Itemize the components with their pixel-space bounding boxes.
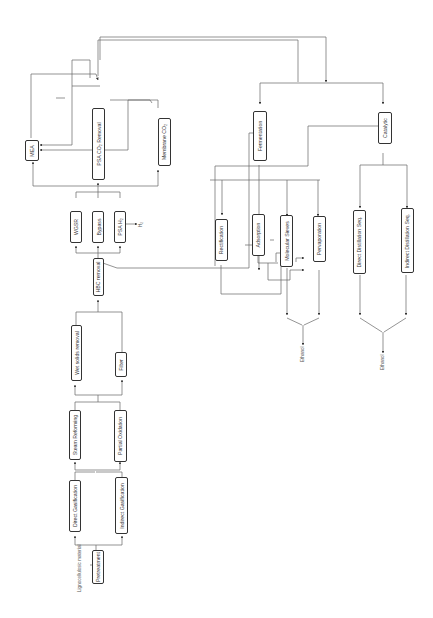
node-label: HBC removal [96, 262, 102, 293]
node-label: Direct Gasification [72, 485, 78, 527]
node-label: Wet solids removal [74, 331, 80, 375]
node-adsorption[interactable]: Adsorption [252, 214, 265, 256]
output-h2-text: H₂ [138, 222, 143, 227]
connector-lines [0, 0, 433, 618]
node-direct-gasification[interactable]: Direct Gasification [69, 480, 81, 532]
node-label: Catalytic [382, 118, 388, 138]
node-label: Partial Oxidation [118, 417, 124, 455]
process-flow-diagram: Lignocellulosic material Pretreatment Di… [0, 0, 433, 618]
node-bypass[interactable]: Bypass [92, 211, 104, 243]
output-ethanol-text: Ethanol [380, 354, 385, 370]
output-ethanol-text: Ethanol [300, 346, 305, 362]
node-label: MEA [29, 145, 35, 156]
node-pretreatment[interactable]: Pretreatment [92, 550, 104, 584]
node-pervaporation[interactable]: Pervaporation [313, 216, 326, 262]
node-label: Bypass [95, 218, 101, 235]
node-membrane-co2[interactable]: Membrane CO₂ [158, 118, 171, 166]
node-label: Steam Reforming [72, 415, 78, 455]
output-h2-label: H₂ [138, 222, 143, 227]
node-label: Membrane CO₂ [162, 124, 168, 160]
node-label: Indirect Gasification [119, 483, 125, 529]
node-catalytic[interactable]: Catalytic [378, 112, 392, 144]
node-partial-oxidation[interactable]: Partial Oxidation [114, 410, 127, 462]
node-molecular-sieves[interactable]: Molecular Sieves [280, 215, 293, 267]
output-ethanol-fermentation: Ethanol [300, 346, 305, 362]
node-label: Fermentation [257, 121, 263, 152]
node-rectification[interactable]: Rectification [215, 219, 228, 261]
node-indirect-distillation-seq[interactable]: Indirect Distillation Seq. [401, 208, 414, 273]
node-label: PSA CO₂ Removal [96, 122, 102, 165]
node-label: PSA H₂ [117, 218, 123, 235]
node-label: Filter [118, 359, 124, 371]
output-ethanol-catalytic: Ethanol [380, 354, 385, 370]
node-label: Rectification [219, 226, 225, 254]
node-label: Pervaporation [317, 223, 323, 255]
node-label: Pretreatment [95, 552, 101, 582]
node-label: Direct Distillation Seq. [357, 217, 363, 268]
node-wgsr[interactable]: WGSR [70, 211, 82, 243]
node-mea[interactable]: MEA [25, 140, 39, 161]
node-label: Molecular Sieves [284, 221, 290, 261]
node-psa-co2-removal[interactable]: PSA CO₂ Removal [92, 108, 105, 180]
node-label: Adsorption [256, 223, 262, 248]
node-filter[interactable]: Filter [115, 352, 127, 377]
node-fermentation[interactable]: Fermentation [253, 111, 267, 161]
node-label: WGSR [73, 219, 79, 235]
input-label-text: Lignocellulosic material [77, 545, 82, 593]
node-steam-reforming[interactable]: Steam Reforming [69, 410, 81, 460]
node-psa-h2[interactable]: PSA H₂ [114, 211, 126, 243]
node-indirect-gasification[interactable]: Indirect Gasification [115, 477, 128, 534]
node-hbc-removal[interactable]: HBC removal [93, 258, 104, 296]
node-label: Indirect Distillation Seq. [405, 213, 411, 267]
input-label: Lignocellulosic material [77, 545, 82, 593]
node-wet-solids-removal[interactable]: Wet solids removal [71, 325, 82, 381]
node-direct-distillation-seq[interactable]: Direct Distillation Seq. [353, 210, 366, 274]
